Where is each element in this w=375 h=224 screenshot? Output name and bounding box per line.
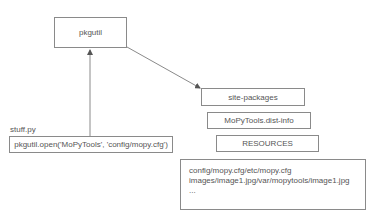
arrow-pkgutil-to-site-packages bbox=[127, 47, 200, 88]
resource-map-node: config/mopy.cfg/etc/mopy.cfg images/imag… bbox=[180, 159, 366, 210]
site-packages-label: site-packages bbox=[228, 93, 277, 102]
dist-info-node: MoPyTools.dist-info bbox=[207, 112, 311, 129]
resource-map-line: images/image1.jpg/var/mopytools/image1.j… bbox=[189, 176, 365, 186]
site-packages-node: site-packages bbox=[201, 88, 305, 106]
stuff-code-node: pkgutil.open('MoPyTools', 'config/mopy.c… bbox=[9, 136, 173, 153]
pkgutil-node: pkgutil bbox=[54, 17, 127, 48]
pkgutil-label: pkgutil bbox=[79, 28, 102, 37]
resources-label: RESOURCES bbox=[242, 139, 293, 148]
stuff-py-label: stuff.py bbox=[10, 125, 36, 134]
resource-map-line: ... bbox=[189, 186, 365, 196]
dist-info-label: MoPyTools.dist-info bbox=[224, 116, 293, 125]
resources-node: RESOURCES bbox=[216, 135, 319, 152]
stuff-code-text: pkgutil.open('MoPyTools', 'config/mopy.c… bbox=[14, 140, 168, 149]
resource-map-line: config/mopy.cfg/etc/mopy.cfg bbox=[189, 166, 365, 176]
